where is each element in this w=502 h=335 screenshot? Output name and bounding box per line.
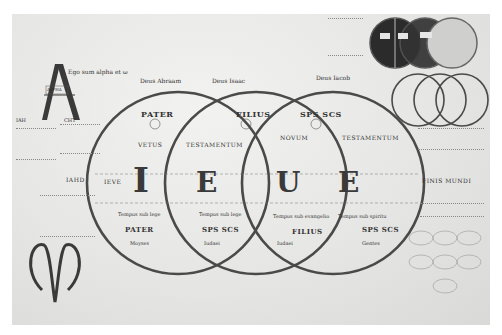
side-label-ieve: IEVE bbox=[104, 178, 121, 185]
omega-letter-graphic bbox=[31, 244, 80, 302]
alpha-inner-label: ALPHA bbox=[47, 87, 62, 92]
letter-u: U bbox=[276, 166, 300, 199]
lower-name-filius: FILIUS bbox=[292, 227, 323, 236]
marginal-text-block-left bbox=[16, 128, 56, 160]
diagram-graphics bbox=[0, 0, 502, 335]
marginal-text-block-right-2 bbox=[420, 203, 484, 217]
marginal-text-block-left-3 bbox=[40, 195, 95, 237]
lower-name-sps-1: SPS SCS bbox=[202, 225, 239, 234]
circle-name-filius: FILIUS bbox=[236, 109, 271, 119]
deus-iacob-label: Deus Iacob bbox=[316, 74, 350, 81]
name-roundels bbox=[150, 119, 321, 129]
deus-isaac-label: Deus Isaac bbox=[212, 77, 245, 84]
bottom-note-moyses: Moyses bbox=[130, 240, 149, 246]
letter-e-2: E bbox=[338, 166, 359, 199]
marginal-text-block-right bbox=[418, 128, 484, 150]
lower-name-pater: PATER bbox=[125, 225, 154, 234]
bottom-note-iudaei-2: Iudaei bbox=[277, 240, 293, 246]
note-spiritus-tempus: Tempus sub evangelio bbox=[273, 213, 329, 219]
circle-filius bbox=[165, 92, 347, 274]
letter-i: I bbox=[133, 160, 149, 200]
label-testamentum-old: TESTAMENTUM bbox=[186, 141, 243, 148]
small-trinity-circles bbox=[392, 74, 488, 126]
small-roundels bbox=[409, 231, 481, 293]
lower-name-sps-2: SPS SCS bbox=[362, 225, 399, 234]
letter-e-1: E bbox=[196, 166, 217, 199]
alpha-right-label: CHT bbox=[64, 117, 76, 123]
deus-abraam-label: Deus Abraam bbox=[140, 77, 181, 84]
bottom-note-iudaei-1: Iudaei bbox=[204, 240, 220, 246]
side-label-iahd: IAHD bbox=[66, 176, 85, 183]
circle-name-pater: PATER bbox=[141, 109, 173, 119]
dark-circles bbox=[370, 18, 477, 68]
alpha-left-label: IAH bbox=[16, 117, 26, 123]
marginal-text-block-top-right bbox=[328, 18, 363, 56]
marginal-text-block-left-2 bbox=[60, 124, 100, 154]
bottom-note-gentes: Gentes bbox=[362, 240, 380, 246]
alpha-phrase: Ego sum alpha et ω bbox=[68, 68, 128, 75]
circle-name-spiritus: SPS SCS bbox=[300, 109, 342, 119]
note-extra-tempus: Tempus sub spiritu bbox=[338, 213, 386, 219]
note-pater-tempus: Tempus sub lege bbox=[118, 211, 161, 217]
note-filius-tempus: Tempus sub lege bbox=[199, 211, 242, 217]
label-novum: NOVUM bbox=[280, 134, 308, 141]
label-testamentum-new: TESTAMENTUM bbox=[342, 134, 399, 141]
label-vetus: VETUS bbox=[138, 141, 162, 148]
side-label-finis-mundi: FINIS MUNDI bbox=[422, 177, 471, 184]
